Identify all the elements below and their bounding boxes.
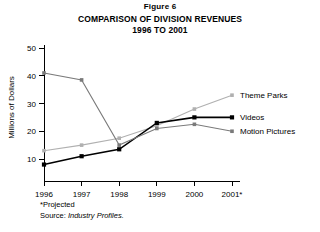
data-point-theme-parks-1996 (42, 149, 46, 153)
footnote-source-prefix: Source: (40, 211, 68, 220)
footnote-source-name: Industry Profiles. (68, 211, 124, 220)
series-label-motion-pictures: Motion Pictures (240, 127, 295, 136)
figure-container: Figure 6 COMPARISON OF DIVISION REVENUES… (0, 0, 320, 232)
data-point-motion-pictures-2000 (193, 123, 197, 127)
y-axis-title: Millions of Dollars (7, 76, 16, 139)
series-label-videos: Videos (240, 113, 264, 122)
data-point-theme-parks-1997 (80, 143, 84, 147)
series-label-theme-parks: Theme Parks (240, 91, 288, 100)
data-point-videos-1997 (80, 154, 84, 158)
data-point-videos-2000 (192, 115, 196, 119)
x-axis-tick-label-3: 1999 (148, 190, 166, 199)
x-axis-tick-label-5: 2001* (222, 190, 243, 199)
footnote-projected: *Projected (40, 199, 124, 210)
series-line-motion-pictures (44, 73, 232, 145)
x-axis-tick-label-0: 1996 (35, 190, 53, 199)
y-axis-tick-label-2: 30 (27, 100, 36, 109)
line-chart: 1020304050Millions of Dollars19961997199… (0, 0, 320, 232)
data-point-videos-1999 (155, 121, 159, 125)
data-point-motion-pictures-1999 (155, 127, 159, 131)
x-axis-tick-label-4: 2000 (186, 190, 204, 199)
y-axis-tick-label-3: 40 (27, 72, 36, 81)
y-axis-tick-label-0: 10 (27, 155, 36, 164)
chart-axes (44, 45, 240, 181)
data-point-motion-pictures-1998 (117, 143, 121, 147)
data-point-motion-pictures-2001* (230, 129, 234, 133)
data-point-motion-pictures-1996 (42, 71, 46, 75)
series-line-theme-parks (44, 95, 232, 151)
data-point-theme-parks-1998 (117, 136, 121, 140)
y-axis-tick-label-4: 50 (27, 44, 36, 53)
series-line-videos (44, 117, 232, 164)
y-axis-tick-label-1: 20 (27, 127, 36, 136)
x-axis-tick-label-1: 1997 (73, 190, 91, 199)
footnote-source: Source: Industry Profiles. (40, 210, 124, 221)
data-point-videos-2001* (230, 115, 234, 119)
data-point-videos-1998 (117, 147, 121, 151)
data-point-theme-parks-2000 (193, 107, 197, 111)
x-axis-tick-label-2: 1998 (110, 190, 128, 199)
footnotes-block: *Projected Source: Industry Profiles. (40, 199, 124, 221)
data-point-videos-1996 (42, 162, 46, 166)
data-point-theme-parks-2001* (230, 93, 234, 97)
data-point-motion-pictures-1997 (80, 78, 84, 82)
